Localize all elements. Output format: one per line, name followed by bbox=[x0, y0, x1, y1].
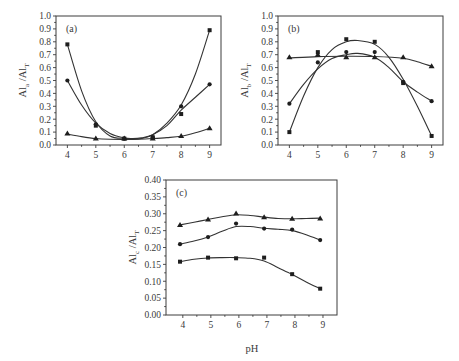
x-tick-label: 7 bbox=[265, 320, 270, 330]
data-point-square bbox=[344, 37, 348, 41]
panel-label: (b) bbox=[288, 23, 300, 35]
data-point-circle bbox=[208, 82, 212, 86]
data-point-circle bbox=[178, 242, 182, 246]
y-tick-label: 0.5 bbox=[261, 76, 273, 86]
data-point-circle bbox=[401, 80, 405, 84]
y-tick-label: 0.2 bbox=[261, 115, 273, 125]
x-tick-label: 5 bbox=[315, 150, 320, 160]
data-point-circle bbox=[262, 227, 266, 231]
data-point-square bbox=[430, 134, 434, 138]
y-tick-label: 0.3 bbox=[39, 102, 51, 112]
data-point-triangle bbox=[233, 210, 239, 215]
y-tick-label: 0.05 bbox=[144, 293, 161, 303]
y-tick-label: 0.20 bbox=[144, 243, 161, 253]
y-tick-label: 0.9 bbox=[261, 24, 273, 34]
y-tick-label: 0.3 bbox=[261, 102, 273, 112]
fit-curve-series-circle bbox=[289, 53, 431, 103]
y-tick-label: 0.7 bbox=[39, 50, 51, 60]
plot-frame bbox=[278, 16, 443, 145]
x-tick-label: 4 bbox=[287, 150, 292, 160]
x-tick-label: 9 bbox=[429, 150, 434, 160]
x-tick-label: 7 bbox=[150, 150, 155, 160]
x-tick-label: 8 bbox=[179, 150, 184, 160]
x-tick-label: 9 bbox=[321, 320, 326, 330]
y-tick-label: 0.10 bbox=[144, 277, 161, 287]
fit-curve-series-square bbox=[67, 30, 209, 139]
data-point-circle bbox=[373, 50, 377, 54]
x-tick-label: 6 bbox=[344, 150, 349, 160]
x-axis-title-ph: pH bbox=[246, 343, 259, 354]
data-point-square bbox=[234, 256, 238, 260]
plot-frame bbox=[166, 180, 337, 315]
data-point-square bbox=[290, 272, 294, 276]
y-tick-label: 0.8 bbox=[39, 37, 51, 47]
y-tick-label: 0.8 bbox=[261, 37, 273, 47]
plot-frame bbox=[56, 16, 221, 145]
x-tick-label: 6 bbox=[237, 320, 242, 330]
y-tick-label: 0.4 bbox=[39, 89, 51, 99]
data-point-circle bbox=[316, 60, 320, 64]
y-tick-label: 1.0 bbox=[261, 11, 273, 21]
data-point-circle bbox=[179, 104, 183, 108]
panel-a: 0.00.10.20.30.40.50.60.70.80.91.0456789(… bbox=[17, 11, 221, 160]
x-tick-label: 5 bbox=[208, 320, 213, 330]
x-tick-label: 8 bbox=[401, 150, 406, 160]
data-point-square bbox=[178, 260, 182, 264]
y-tick-label: 0.00 bbox=[144, 310, 161, 320]
y-tick-label: 0.7 bbox=[261, 50, 273, 60]
data-point-triangle bbox=[400, 54, 406, 59]
data-point-square bbox=[179, 112, 183, 116]
y-tick-label: 0.2 bbox=[39, 115, 51, 125]
y-axis-title: Ala /AlT bbox=[17, 63, 31, 98]
x-tick-label: 4 bbox=[65, 150, 70, 160]
x-tick-label: 4 bbox=[180, 320, 185, 330]
y-tick-label: 0.25 bbox=[144, 226, 161, 236]
fit-curve-series-circle bbox=[180, 226, 320, 244]
data-point-square bbox=[262, 256, 266, 260]
panel-label: (a) bbox=[66, 23, 77, 35]
figure: 0.00.10.20.30.40.50.60.70.80.91.0456789(… bbox=[0, 0, 459, 361]
panel-c: 0.000.050.100.150.200.250.300.350.404567… bbox=[127, 175, 337, 330]
y-tick-label: 0.15 bbox=[144, 260, 161, 270]
x-tick-label: 6 bbox=[122, 150, 127, 160]
data-point-triangle bbox=[286, 54, 292, 59]
data-point-triangle bbox=[207, 125, 213, 130]
fit-curve-series-square bbox=[180, 258, 320, 289]
data-point-circle bbox=[290, 228, 294, 232]
y-tick-label: 0.1 bbox=[39, 127, 51, 137]
x-tick-label: 8 bbox=[293, 320, 298, 330]
y-tick-label: 0.1 bbox=[261, 127, 273, 137]
y-tick-label: 1.0 bbox=[39, 11, 51, 21]
data-point-circle bbox=[65, 78, 69, 82]
figure-canvas: 0.00.10.20.30.40.50.60.70.80.91.0456789(… bbox=[0, 0, 459, 361]
y-axis-title: Alb /AlT bbox=[239, 63, 253, 98]
y-axis-title: Alc /AlT bbox=[127, 230, 141, 265]
data-point-circle bbox=[94, 122, 98, 126]
data-point-square bbox=[318, 287, 322, 291]
data-point-triangle bbox=[315, 52, 321, 57]
y-tick-label: 0.30 bbox=[144, 209, 161, 219]
data-point-circle bbox=[287, 102, 291, 106]
y-tick-label: 0.9 bbox=[39, 24, 51, 34]
y-tick-label: 0.6 bbox=[39, 63, 51, 73]
x-tick-label: 9 bbox=[207, 150, 212, 160]
y-tick-label: 0.0 bbox=[261, 140, 273, 150]
panel-b: 0.00.10.20.30.40.50.60.70.80.91.0456789(… bbox=[239, 11, 443, 160]
fit-curve-series-square bbox=[289, 40, 431, 136]
data-point-square bbox=[65, 42, 69, 46]
fit-curve-series-triangle bbox=[289, 56, 431, 66]
data-point-square bbox=[373, 40, 377, 44]
x-tick-label: 5 bbox=[93, 150, 98, 160]
data-point-triangle bbox=[64, 130, 70, 135]
data-point-circle bbox=[234, 221, 238, 225]
data-point-circle bbox=[430, 99, 434, 103]
y-tick-label: 0.4 bbox=[261, 89, 273, 99]
data-point-circle bbox=[318, 238, 322, 242]
panel-label: (c) bbox=[176, 187, 187, 199]
data-point-circle bbox=[206, 235, 210, 239]
x-tick-label: 7 bbox=[372, 150, 377, 160]
data-point-square bbox=[206, 256, 210, 260]
fit-curve-series-triangle bbox=[180, 215, 320, 225]
y-tick-label: 0.35 bbox=[144, 192, 161, 202]
data-point-square bbox=[208, 28, 212, 32]
